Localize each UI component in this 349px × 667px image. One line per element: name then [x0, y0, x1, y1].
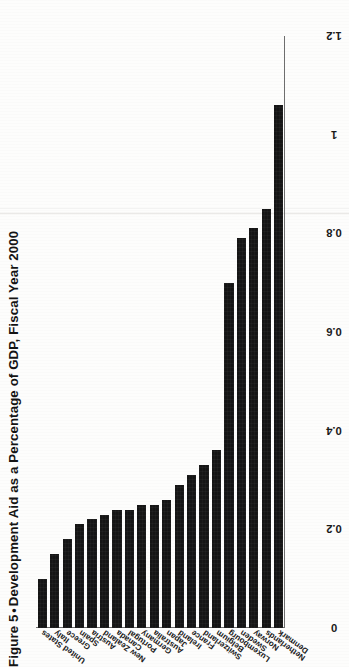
plot-area: 1.210.80.60.40.20 DenmarkNetherlandsNorw…: [36, 36, 285, 628]
bar-row: [50, 36, 59, 628]
value-tick-0-6: 0.6: [326, 326, 342, 338]
bar-row: [212, 36, 221, 628]
bar-row: [150, 36, 159, 628]
value-tick-0-8: 0.8: [326, 227, 342, 239]
bar-japan: [162, 500, 171, 628]
bars-group: [36, 36, 285, 628]
value-tick-0-2: 0.2: [326, 523, 342, 535]
title-bullet-icon: •: [7, 606, 21, 614]
bar-australia: [150, 505, 159, 628]
rotated-figure-wrapper: Figure 5•Development Aid as a Percentage…: [0, 0, 349, 667]
value-tick-1-2: 1.2: [326, 30, 342, 42]
bar-row: [125, 36, 134, 628]
bar-spain: [75, 524, 84, 628]
bar-portugal: [125, 510, 134, 628]
bar-austria: [87, 519, 96, 628]
figure: Figure 5•Development Aid as a Percentage…: [0, 0, 349, 667]
bar-norway: [249, 228, 258, 628]
bar-new-zealand: [100, 515, 109, 628]
bar-row: [137, 36, 146, 628]
bar-row: [274, 36, 283, 628]
bar-row: [175, 36, 184, 628]
bar-ireland: [175, 485, 184, 628]
bar-row: [224, 36, 233, 628]
bar-greece: [63, 539, 72, 628]
bar-united-states: [38, 579, 47, 628]
bar-row: [262, 36, 271, 628]
bar-netherlands: [262, 209, 271, 628]
bar-france: [187, 475, 196, 628]
bar-row: [38, 36, 47, 628]
bar-italy: [50, 554, 59, 628]
bar-row: [199, 36, 208, 628]
figure-number: Figure 5: [6, 615, 21, 667]
bar-row: [249, 36, 258, 628]
figure-title-text: Development Aid as a Percentage of GDP, …: [6, 231, 21, 606]
bar-luxembourg: [224, 283, 233, 628]
value-tick-0: 0: [331, 622, 337, 634]
bar-row: [100, 36, 109, 628]
bar-row: [87, 36, 96, 628]
value-tick-1: 1: [331, 129, 337, 141]
bar-canada: [112, 510, 121, 628]
bar-row: [162, 36, 171, 628]
bar-row: [75, 36, 84, 628]
bar-denmark: [274, 105, 283, 628]
bar-sweden: [237, 238, 246, 628]
figure-title: Figure 5•Development Aid as a Percentage…: [6, 231, 21, 667]
bar-germany: [137, 505, 146, 628]
bar-row: [237, 36, 246, 628]
value-tick-0-4: 0.4: [326, 425, 342, 437]
bar-row: [112, 36, 121, 628]
bar-switzerland: [199, 465, 208, 628]
bar-row: [63, 36, 72, 628]
bar-belgium: [212, 450, 221, 628]
bar-row: [187, 36, 196, 628]
